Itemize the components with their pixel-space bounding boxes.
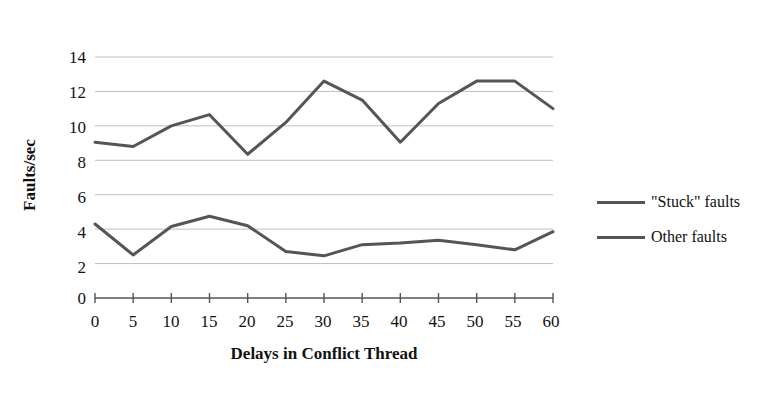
chart-figure: Faults/sec 14 12 10 8 6 4 2 0 0 5 10 15 … (0, 0, 781, 400)
legend-label-stuck-faults[interactable]: "Stuck" faults (651, 194, 740, 210)
x-axis-line (95, 293, 553, 303)
legend-swatch-stuck-faults (597, 201, 645, 204)
series-line-stuck-faults (95, 216, 553, 256)
series-line-other-faults (95, 81, 553, 154)
legend-swatch-other-faults (597, 236, 645, 239)
legend-label-other-faults[interactable]: Other faults (651, 229, 727, 245)
